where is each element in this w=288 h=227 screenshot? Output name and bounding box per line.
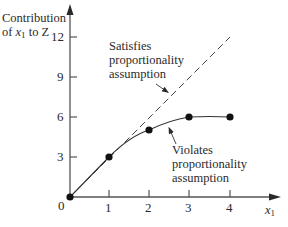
y-ticks [70, 37, 77, 157]
y-axis-arrow-icon [67, 4, 74, 15]
y-axis-label-line1: Contribution [2, 11, 66, 25]
y-tick-12: 12 [51, 30, 64, 44]
x-tick-1: 1 [105, 201, 112, 215]
violates-pointer [170, 130, 176, 144]
x-tick-4: 4 [226, 201, 233, 215]
x-tick-2: 2 [145, 201, 152, 215]
y-tick-6: 6 [57, 110, 64, 124]
satisfies-pointer [156, 84, 166, 91]
origin-label: 0 [58, 199, 65, 213]
satisfies-annotation: Satisfies proportionality assumption [109, 39, 184, 81]
y-tick-9: 9 [57, 70, 64, 84]
violates-annotation: Violates proportionality assumption [172, 143, 247, 185]
x-ticks [109, 190, 230, 197]
x-axis-label: x1 [265, 203, 275, 217]
y-tick-3: 3 [57, 150, 64, 164]
x-tick-3: 3 [185, 201, 192, 215]
x-axis-arrow-icon [269, 194, 281, 201]
